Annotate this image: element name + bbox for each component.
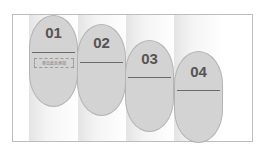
divider-line [80,62,123,63]
divider-line [128,77,171,78]
divider-line [177,90,220,91]
step-capsule-01[interactable]: 01 单击此处添加 [29,15,78,107]
step-capsule-02[interactable]: 02 [77,24,126,116]
step-number: 01 [30,24,77,41]
step-number: 02 [78,34,125,51]
step-number: 03 [126,50,173,67]
step-number: 04 [175,63,222,80]
step-capsule-03[interactable]: 03 [125,40,174,132]
subtitle-textbox[interactable]: 单击此处添加 [34,58,74,68]
divider-line [32,52,75,53]
step-capsule-04[interactable]: 04 [174,51,223,143]
